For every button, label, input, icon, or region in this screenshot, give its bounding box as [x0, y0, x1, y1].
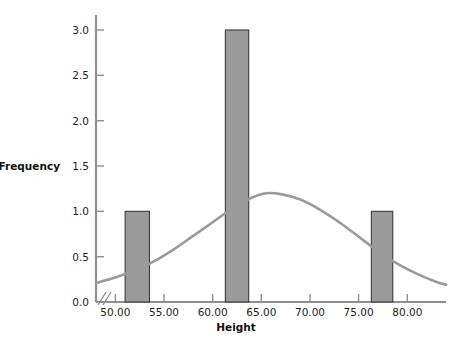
x-tick-label: 70.00: [295, 306, 325, 318]
y-tick-label: 2.0: [72, 115, 89, 127]
y-tick-label: 2.5: [72, 69, 89, 81]
x-tick-label: 50.00: [100, 306, 130, 318]
x-tick-label: 80.00: [392, 306, 422, 318]
x-axis-title: Height: [216, 321, 256, 333]
x-tick-label: 55.00: [149, 306, 179, 318]
y-tick-label: 0.5: [72, 251, 89, 263]
histogram-bar: [225, 30, 248, 302]
histogram-bar: [371, 211, 392, 302]
histogram-chart: 3.0 2.5 2.0 1.5 1.0 0.5 0.0 Frequency 50…: [0, 0, 450, 352]
y-axis-title: Frequency: [0, 160, 60, 172]
y-tick-label: 3.0: [72, 24, 89, 36]
y-tick-label: 1.0: [72, 205, 89, 217]
y-tick-label: 1.5: [72, 160, 89, 172]
x-tick-label: 60.00: [198, 306, 228, 318]
y-tick-label: 0.0: [72, 296, 89, 308]
x-tick-label: 75.00: [344, 306, 374, 318]
chart-canvas: 3.0 2.5 2.0 1.5 1.0 0.5 0.0 Frequency 50…: [0, 0, 450, 352]
histogram-bar: [125, 211, 149, 302]
x-tick-label: 65.00: [246, 306, 276, 318]
